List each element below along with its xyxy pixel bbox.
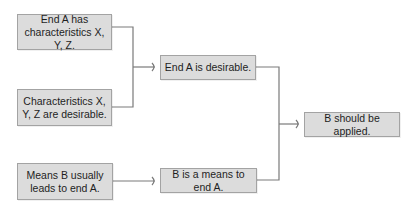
conclusion-text: End A is desirable. [165,61,251,74]
intermediate-box-b-means: B is a means to end A. [160,168,257,193]
conclusion-text: B is a means to end A. [164,168,253,194]
premise-text: Means B usually leads to end A. [21,169,109,195]
final-conclusion-box: B should be applied. [304,112,400,137]
premise-text: End A has characteristics X, Y, Z. [21,13,108,52]
connector-p1 [112,27,133,107]
premise-box-means-b: Means B usually leads to end A. [17,163,113,200]
connector-c1-c2 [256,67,279,180]
final-conclusion-text: B should be applied. [308,112,396,138]
premise-box-end-a-characteristics: End A has characteristics X, Y, Z. [17,14,112,50]
premise-text: Characteristics X, Y, Z are desirable. [21,95,108,121]
intermediate-box-end-a-desirable: End A is desirable. [160,55,256,80]
premise-box-characteristics-desirable: Characteristics X, Y, Z are desirable. [17,89,112,126]
